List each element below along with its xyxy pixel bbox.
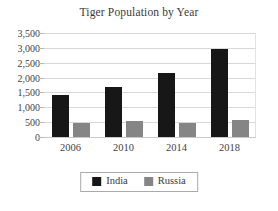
legend-item-label: India — [106, 176, 128, 187]
y-tick-mark — [39, 33, 44, 34]
bar-india-2010 — [105, 87, 122, 138]
y-axis-tick-label: 2,000 — [0, 72, 40, 83]
x-axis-tick-label: 2010 — [113, 142, 134, 153]
y-axis-tick-label: 3,000 — [0, 42, 40, 53]
y-tick-mark — [39, 92, 44, 93]
legend-item-russia[interactable]: Russia — [144, 176, 186, 187]
bar-russia-2010 — [126, 121, 143, 137]
bar-india-2018 — [211, 49, 228, 137]
y-tick-mark — [39, 48, 44, 49]
chart-legend: IndiaRussia — [80, 172, 198, 192]
y-axis-tick-label: 3,500 — [0, 28, 40, 39]
gridline — [44, 33, 256, 34]
bar-russia-2014 — [179, 123, 196, 137]
chart-title: Tiger Population by Year — [0, 6, 278, 18]
y-tick-mark — [39, 137, 44, 138]
y-tick-mark — [39, 63, 44, 64]
x-axis-tick-label: 2014 — [166, 142, 187, 153]
legend-item-label: Russia — [158, 176, 186, 187]
y-axis-tick-label: 2,500 — [0, 57, 40, 68]
y-tick-mark — [39, 107, 44, 108]
y-axis-tick-label: 1,500 — [0, 87, 40, 98]
gridline — [44, 137, 256, 138]
bar-russia-2006 — [73, 123, 90, 137]
chart-container: Tiger Population by Year 05001,0001,5002… — [0, 0, 278, 211]
y-axis-tick-label: 1,000 — [0, 102, 40, 113]
y-tick-mark — [39, 78, 44, 79]
x-axis-tick-label: 2018 — [219, 142, 240, 153]
x-axis-tick-label: 2006 — [60, 142, 81, 153]
y-axis-tick-label: 0 — [0, 132, 40, 143]
bar-india-2014 — [158, 73, 175, 137]
legend-swatch-icon — [92, 177, 101, 186]
bar-india-2006 — [52, 95, 69, 137]
legend-swatch-icon — [144, 177, 153, 186]
y-tick-mark — [39, 122, 44, 123]
plot-area — [44, 33, 256, 137]
bar-russia-2018 — [232, 120, 249, 137]
legend-item-india[interactable]: India — [92, 176, 128, 187]
plot-right-border — [255, 33, 256, 137]
y-axis-tick-label: 500 — [0, 117, 40, 128]
